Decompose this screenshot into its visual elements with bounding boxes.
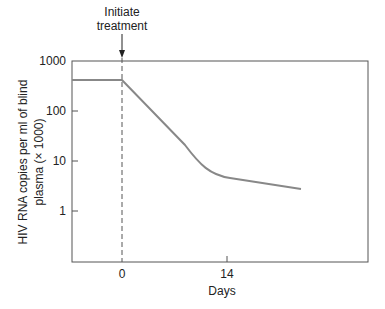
y-tick-1: 1 [59, 204, 66, 218]
x-tick-0: 0 [119, 267, 126, 281]
arrow-down-icon [119, 34, 125, 58]
chart: 1000 100 10 1 0 14 Days HIV RNA copies p… [0, 0, 385, 309]
annotation-line2: treatment [97, 19, 148, 33]
y-tick-100: 100 [46, 104, 66, 118]
y-axis-label-line2: plasma (× 1000) [32, 118, 46, 205]
y-axis-label-line1: HIV RNA copies per ml of blind [16, 80, 30, 245]
y-tick-1000: 1000 [39, 54, 66, 68]
y-tick-10: 10 [53, 154, 67, 168]
y-axis [72, 111, 78, 211]
plot-frame [72, 61, 368, 262]
annotation-line1: Initiate [104, 5, 140, 19]
x-tick-14: 14 [220, 267, 234, 281]
viral-load-curve [72, 80, 301, 189]
x-axis-label: Days [208, 284, 235, 298]
